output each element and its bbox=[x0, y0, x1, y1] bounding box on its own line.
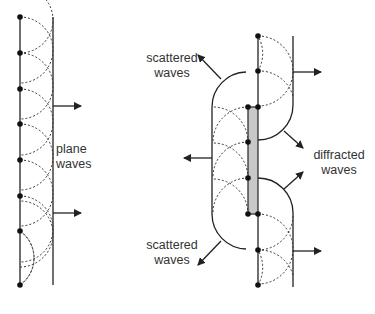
label-line: waves bbox=[56, 157, 91, 172]
label-line: scattered bbox=[137, 51, 207, 66]
label-line: scattered bbox=[137, 238, 207, 253]
label-line: waves bbox=[304, 163, 374, 178]
diffracted-waves-label: diffracted waves bbox=[304, 148, 374, 178]
label-line: waves bbox=[137, 253, 207, 268]
scattered-waves-bottom-label: scattered waves bbox=[137, 238, 207, 268]
arrow-icon bbox=[284, 172, 303, 189]
label-line: diffracted bbox=[304, 148, 374, 163]
scattered-waves-top-label: scattered waves bbox=[137, 51, 207, 81]
arrow-icon bbox=[284, 131, 303, 148]
label-line: waves bbox=[137, 66, 207, 81]
wavelets bbox=[20, 0, 53, 285]
label-line: plane bbox=[56, 142, 91, 157]
diffracted-wavefront-top bbox=[258, 36, 293, 140]
plane-waves-label: plane waves bbox=[56, 142, 91, 172]
aperture-obstacle bbox=[248, 107, 258, 214]
